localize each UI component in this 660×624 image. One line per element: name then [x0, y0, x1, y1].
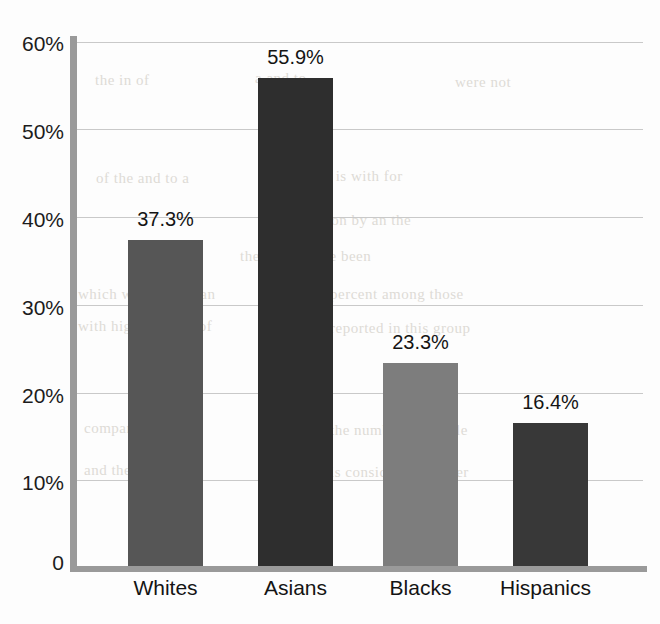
x-label-asians: Asians [238, 577, 353, 598]
bar-value-whites: 37.3% [113, 209, 218, 229]
bar-blacks [383, 363, 458, 566]
bar-whites [128, 240, 203, 566]
x-label-hispanics: Hispanics [488, 577, 603, 598]
bars-layer [0, 0, 660, 566]
bar-chart: the in of a and to were not of the and t… [0, 0, 660, 624]
x-axis-line [70, 566, 647, 572]
x-label-blacks: Blacks [363, 577, 478, 598]
bar-hispanics [513, 423, 588, 566]
bar-value-hispanics: 16.4% [498, 392, 603, 412]
x-label-whites: Whites [108, 577, 223, 598]
bar-asians [258, 78, 333, 566]
bar-value-blacks: 23.3% [368, 332, 473, 352]
bar-value-asians: 55.9% [243, 47, 348, 67]
